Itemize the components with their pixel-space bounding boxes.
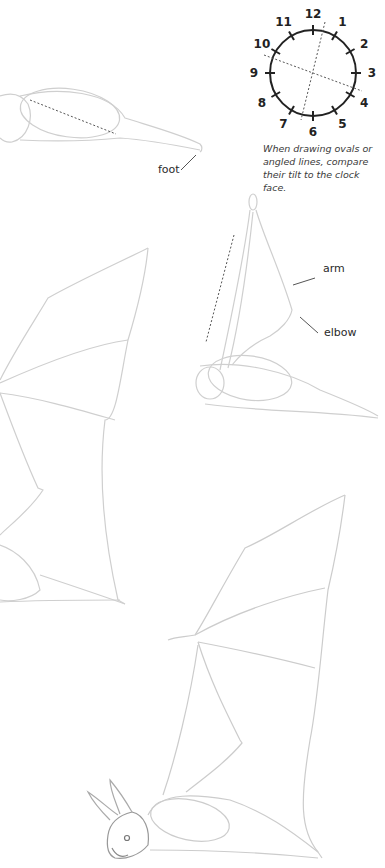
clock-number-12: 12 bbox=[305, 7, 322, 21]
foot-label: foot bbox=[158, 163, 180, 176]
arm-label: arm bbox=[323, 262, 345, 275]
arm-leader-line bbox=[293, 278, 315, 285]
elbow-leader-line bbox=[300, 317, 318, 333]
clock-tilt-line-horizontal bbox=[264, 55, 362, 91]
bat-full-sketch-bottom bbox=[88, 495, 345, 858]
clock-number-11: 11 bbox=[275, 15, 292, 29]
foot-leader-line bbox=[181, 155, 196, 170]
clock-number-6: 6 bbox=[309, 125, 317, 139]
clock-number-10: 10 bbox=[254, 37, 271, 51]
bat-body-sketch-top bbox=[0, 82, 202, 170]
clock-number-9: 9 bbox=[250, 66, 258, 80]
clock-number-5: 5 bbox=[338, 117, 346, 131]
clock-number-2: 2 bbox=[360, 37, 368, 51]
clock-number-1: 1 bbox=[338, 15, 346, 29]
illustration-canvas: 121234567891011 bbox=[0, 0, 385, 868]
clock-number-3: 3 bbox=[368, 66, 376, 80]
clock-diagram: 121234567891011 bbox=[250, 7, 376, 139]
clock-number-8: 8 bbox=[258, 96, 266, 110]
clock-number-7: 7 bbox=[279, 117, 287, 131]
clock-number-4: 4 bbox=[360, 96, 368, 110]
body-tilt-line bbox=[30, 100, 116, 134]
bat-folded-arm-sketch bbox=[196, 194, 378, 418]
clock-tilt-line-vertical bbox=[301, 22, 325, 120]
clock-caption: When drawing ovals or angled lines, comp… bbox=[263, 142, 385, 194]
bat-wing-sketch-left bbox=[0, 248, 148, 604]
elbow-label: elbow bbox=[324, 326, 357, 339]
